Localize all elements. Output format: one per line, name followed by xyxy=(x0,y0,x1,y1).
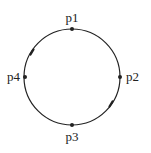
circle-diagram: p1 p2 p3 p4 xyxy=(0,0,151,153)
point-p1: p1 xyxy=(66,10,79,31)
point-p1-dot xyxy=(70,27,74,31)
point-p3-label: p3 xyxy=(66,129,79,144)
point-p2: p2 xyxy=(118,69,139,84)
point-p2-dot xyxy=(118,75,122,79)
direction-mark-upper-left xyxy=(31,50,34,55)
direction-marks xyxy=(31,50,113,107)
circle-path xyxy=(24,29,120,125)
point-p2-label: p2 xyxy=(126,69,139,84)
point-p4-dot xyxy=(23,75,27,79)
direction-mark-lower-right xyxy=(110,102,113,107)
point-p1-label: p1 xyxy=(66,10,79,25)
point-p3: p3 xyxy=(66,123,79,144)
point-p4-label: p4 xyxy=(7,69,21,84)
point-p3-dot xyxy=(70,123,74,127)
